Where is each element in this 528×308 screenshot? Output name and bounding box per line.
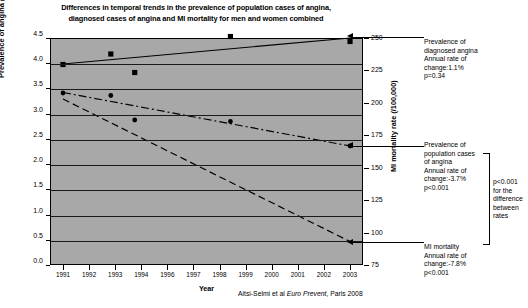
annotation-diagnosed-angina: Prevalence of diagnosed angina Annual ra… <box>424 38 508 81</box>
y-axis-left-label: 4.0 <box>0 55 43 62</box>
annotation-line: diagnosed angina <box>424 47 508 56</box>
annotation-line: between <box>493 204 528 213</box>
citation-prefix: Aitsi-Selmi et al <box>238 290 287 297</box>
y-axis-left-tick <box>46 114 50 115</box>
x-axis-tick <box>246 265 247 270</box>
y-axis-left-tick <box>46 88 50 89</box>
data-point <box>132 118 137 123</box>
y-axis-left-tick <box>46 38 50 39</box>
annotation-tick <box>414 37 421 38</box>
y-axis-left-label: 0.5 <box>0 232 43 239</box>
x-axis-tick <box>89 265 90 270</box>
plot-area <box>50 38 363 265</box>
gridline <box>51 64 362 65</box>
y-axis-right-label: 75 <box>371 261 379 268</box>
annotation-line: change:-7.8% <box>424 260 508 269</box>
y-axis-left-label: 0.0 <box>0 257 43 264</box>
x-axis-tick <box>141 265 142 270</box>
y-axis-right-title: MI mortality rate (/100,000) <box>389 80 398 172</box>
annotation-mi-mortality: MI mortality Annual rate of change:-7.8%… <box>424 243 508 277</box>
x-axis-tick <box>350 265 351 270</box>
data-point <box>108 51 113 56</box>
x-axis-tick <box>167 265 168 270</box>
gridline <box>51 165 362 166</box>
annotation-line: MI mortality <box>424 243 508 252</box>
x-axis-tick <box>193 265 194 270</box>
trend-line <box>63 99 350 242</box>
annotation-line: Annual rate of <box>424 167 508 176</box>
y-axis-left-label: 2.5 <box>0 131 43 138</box>
y-axis-right-label: 100 <box>371 229 383 236</box>
y-axis-left-label: 2.0 <box>0 156 43 163</box>
data-point <box>228 119 233 124</box>
trend-line <box>63 38 350 64</box>
data-point <box>228 34 233 39</box>
data-point <box>132 70 137 75</box>
gridline <box>51 89 362 90</box>
x-axis-tick <box>115 265 116 270</box>
leader-arrowhead <box>347 33 353 39</box>
x-axis-label: 2003 <box>335 271 365 278</box>
x-axis-tick <box>298 265 299 270</box>
brace-bracket <box>483 153 490 245</box>
y-axis-right-tick <box>364 233 369 234</box>
annotation-tick <box>414 146 421 147</box>
leader-arrowhead <box>347 239 353 245</box>
y-axis-left-tick <box>46 215 50 216</box>
y-axis-right-tick <box>364 70 369 71</box>
data-point <box>61 91 66 96</box>
y-axis-left-label: 1.0 <box>0 207 43 214</box>
y-axis-right-label: 175 <box>371 131 383 138</box>
leader-arrowhead <box>347 142 353 148</box>
annotation-line: Prevalence of <box>424 38 508 47</box>
gridline <box>51 115 362 116</box>
y-axis-left-label: 3.5 <box>0 80 43 87</box>
y-axis-left-tick <box>46 63 50 64</box>
y-axis-left-tick <box>46 164 50 165</box>
y-axis-left-tick <box>46 265 50 266</box>
y-axis-left-label: 4.5 <box>0 30 43 37</box>
gridline <box>51 216 362 217</box>
annotation-line: p<0.001 <box>424 269 508 278</box>
data-point <box>108 93 113 98</box>
annotation-line: for the <box>493 187 528 196</box>
citation-suffix: , Paris 2008 <box>326 290 362 297</box>
gridline <box>51 241 362 242</box>
y-axis-right-tick <box>364 168 369 169</box>
chart-title: Differences in temporal trends in the pr… <box>28 3 364 24</box>
chart-title-line-1: Differences in temporal trends in the pr… <box>28 3 364 14</box>
annotation-line: p=0.34 <box>424 72 508 81</box>
annotation-line: difference <box>493 195 528 204</box>
trend-line <box>63 93 350 147</box>
data-point <box>347 39 352 44</box>
y-axis-left-label: 1.5 <box>0 181 43 188</box>
y-axis-right-label: 225 <box>371 66 383 73</box>
y-axis-left-title: Prevalence of angina (%) <box>0 0 6 78</box>
y-axis-right-label: 125 <box>371 196 383 203</box>
x-axis-tick <box>63 265 64 270</box>
y-axis-right-tick <box>364 38 369 39</box>
y-axis-right-tick <box>364 103 369 104</box>
citation: Aitsi-Selmi et al Euro Prevent, Paris 20… <box>238 290 363 297</box>
x-axis-tick <box>272 265 273 270</box>
y-axis-right-label: 200 <box>371 99 383 106</box>
y-axis-right-label: 150 <box>371 164 383 171</box>
series-lines <box>51 39 362 264</box>
annotation-line: Prevalence of <box>424 141 508 150</box>
annotation-line: change:1.1% <box>424 64 508 73</box>
x-axis-tick <box>324 265 325 270</box>
citation-source: Euro Prevent <box>287 290 327 297</box>
y-axis-right-tick <box>364 265 369 266</box>
y-axis-right-tick <box>364 200 369 201</box>
x-axis-tick <box>220 265 221 270</box>
gridline <box>51 140 362 141</box>
gridline <box>51 190 362 191</box>
y-axis-right-tick <box>364 135 369 136</box>
y-axis-left-tick <box>46 189 50 190</box>
annotation-line: of angina <box>424 158 508 167</box>
y-axis-left-label: 3.0 <box>0 106 43 113</box>
annotation-line: p<0.001 <box>493 178 528 187</box>
y-axis-left-tick <box>46 139 50 140</box>
annotation-difference-between-rates: p<0.001 for the difference between rates <box>493 178 528 221</box>
annotation-line: population cases <box>424 150 508 159</box>
